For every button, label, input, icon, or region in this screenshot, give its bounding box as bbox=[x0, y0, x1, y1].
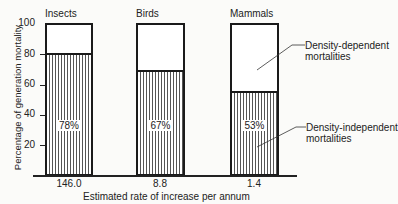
legend-density-independent: Density-independent mortalities bbox=[306, 122, 398, 144]
legend-leader-lines bbox=[0, 0, 398, 204]
legend-density-dependent: Density-dependent mortalities bbox=[305, 40, 389, 62]
